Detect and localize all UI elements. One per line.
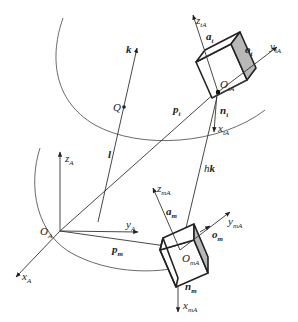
axis-line-l (98, 48, 137, 222)
label-z-a: zA (64, 152, 74, 167)
vector-p-t (60, 91, 217, 231)
label-hk: hk (204, 162, 216, 174)
label-x-a: xA (21, 270, 32, 285)
origin-ota-dot (216, 90, 220, 94)
label-k: k (126, 43, 132, 55)
label-o-m: om (212, 228, 224, 243)
label-p-m: pm (111, 243, 124, 258)
label-o-a: OA (40, 225, 53, 240)
label-x-ta: xtA (217, 122, 230, 137)
point-q (122, 105, 126, 109)
label-n-t: nt (220, 104, 229, 119)
y-a-axis (60, 231, 138, 232)
label-x-ma: xmA (182, 299, 198, 314)
x-ta-axis (214, 92, 217, 132)
label-n-m: nm (185, 280, 197, 295)
label-a-m: am (166, 205, 178, 220)
label-y-a: yA (125, 218, 136, 233)
label-y-ta: ytA (269, 40, 282, 55)
label-y-ma: ymA (227, 215, 243, 230)
label-p-t: pt (172, 103, 182, 118)
label-q: Q (113, 101, 121, 113)
label-z-ma: zmA (156, 182, 171, 197)
kinematic-frames-diagram: zA yA xA OA k Q l pt pm hk ztA at ot ytA… (0, 0, 298, 322)
label-a-t: at (206, 30, 215, 45)
label-l: l (108, 148, 112, 160)
